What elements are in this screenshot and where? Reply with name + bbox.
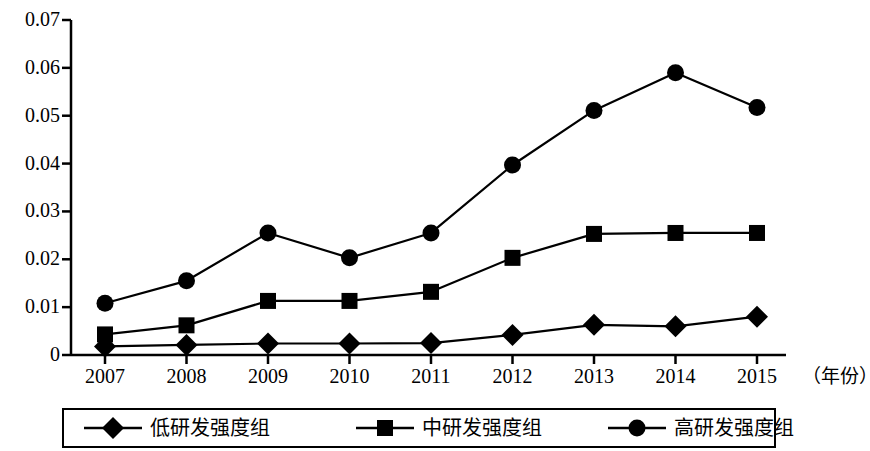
y-axis-tick-label: 0.02 — [0, 248, 60, 268]
y-axis-tick-label: 0.06 — [0, 57, 60, 77]
data-point-marker — [260, 293, 276, 309]
x-axis-tick-label: 2010 — [305, 366, 395, 386]
y-axis-tick-label: 0.03 — [0, 200, 60, 220]
legend-item-label: 中研发强度组 — [422, 418, 542, 438]
data-point-marker — [668, 225, 684, 241]
data-point-marker — [257, 333, 279, 355]
series-1 — [94, 306, 768, 358]
data-point-marker — [746, 306, 768, 328]
legend-item-3[interactable]: 高研发强度组 — [606, 410, 794, 446]
data-point-marker — [178, 272, 195, 289]
legend-item-label: 低研发强度组 — [150, 418, 270, 438]
series-3 — [97, 64, 766, 312]
y-axis-tick-label: 0.01 — [0, 296, 60, 316]
diamond-marker — [82, 416, 144, 440]
data-point-marker — [505, 250, 521, 266]
data-point-marker — [583, 314, 605, 336]
legend-item-2[interactable]: 中研发强度组 — [354, 410, 542, 446]
data-point-marker — [502, 324, 524, 346]
x-axis-ticks — [105, 355, 757, 364]
y-axis-tick-label: 0.05 — [0, 105, 60, 125]
data-point-marker — [342, 293, 358, 309]
series-2 — [97, 225, 765, 342]
data-point-marker — [423, 284, 439, 300]
data-point-marker — [667, 64, 684, 81]
x-axis-tick-label: 2011 — [386, 366, 476, 386]
data-point-marker — [749, 225, 765, 241]
x-axis-tick-label: 2013 — [549, 366, 639, 386]
data-point-marker — [586, 226, 602, 242]
legend-item-1[interactable]: 低研发强度组 — [82, 410, 270, 446]
x-axis-tick-label: 2012 — [468, 366, 558, 386]
y-axis-tick-label: 0 — [0, 344, 60, 364]
y-axis-tick-label: 0.04 — [0, 153, 60, 173]
x-axis-tick-label: 2015 — [712, 366, 802, 386]
data-point-marker — [260, 224, 277, 241]
data-point-marker — [339, 333, 361, 355]
x-axis-tick-label: 2014 — [631, 366, 721, 386]
data-point-marker — [423, 224, 440, 241]
y-axis-tick-label: 0.07 — [0, 9, 60, 29]
y-axis-ticks — [62, 20, 71, 355]
chart-legend: 低研发强度组中研发强度组高研发强度组 — [62, 408, 776, 448]
data-point-marker — [504, 157, 521, 174]
data-point-marker — [341, 249, 358, 266]
data-point-marker — [97, 295, 114, 312]
chart-series-layer — [94, 64, 768, 357]
data-point-marker — [179, 317, 195, 333]
circle-marker — [606, 416, 668, 440]
x-axis-tick-label: 2007 — [60, 366, 150, 386]
legend-item-label: 高研发强度组 — [674, 418, 794, 438]
x-axis-tick-label: 2009 — [223, 366, 313, 386]
data-point-marker — [176, 334, 198, 356]
data-point-marker — [749, 99, 766, 116]
data-point-marker — [586, 102, 603, 119]
x-axis-tick-label: 2008 — [142, 366, 232, 386]
data-point-marker — [665, 315, 687, 337]
x-axis-unit-annotation: （年份） — [802, 367, 870, 387]
data-point-marker — [420, 332, 442, 354]
square-marker — [354, 416, 416, 440]
data-point-marker — [97, 326, 113, 342]
